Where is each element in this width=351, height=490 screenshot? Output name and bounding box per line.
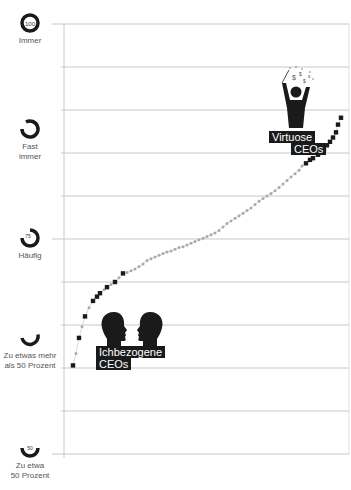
svg-text:$: $ (308, 74, 311, 79)
juggling-money-person-icon: $ $ $ $ (282, 66, 314, 128)
virtuose-label-line2: CEOs (291, 143, 326, 155)
svg-text:$: $ (303, 78, 306, 84)
grid-lines (52, 24, 349, 458)
two-heads-facing-icon (102, 312, 163, 346)
svg-text:$: $ (299, 71, 302, 77)
ichbezogene-label-line2: CEOs (96, 358, 131, 370)
ichbezogene-label-line1: Ichbezogene (96, 346, 165, 358)
virtuose-label-line1: Virtuose (269, 131, 315, 143)
scatter-chart: $ $ $ $ (0, 0, 351, 490)
svg-text:$: $ (292, 74, 296, 81)
